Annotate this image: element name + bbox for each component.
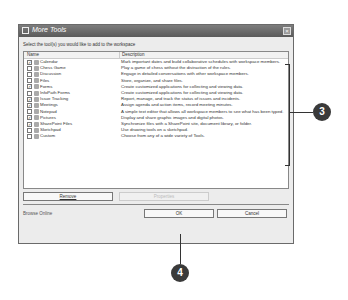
window-icon: [22, 27, 29, 34]
close-button[interactable]: ×: [283, 27, 291, 35]
tool-description: Store, organize, and share files.: [121, 78, 183, 83]
tool-icon: [34, 128, 39, 133]
tool-name: Forms: [40, 84, 52, 89]
tool-checkbox[interactable]: [27, 66, 32, 71]
tool-icon: [34, 84, 39, 89]
browse-online-link[interactable]: Browse Online: [23, 211, 52, 216]
tool-icon: [34, 115, 39, 120]
tool-description: Report, manage, and track the status of …: [121, 96, 240, 101]
tool-description: Use drawing tools on a sketchpad.: [121, 127, 188, 132]
callout-4: 4: [171, 264, 189, 282]
callout-bracket: [285, 64, 290, 166]
title-bar: More Tools ×: [19, 25, 293, 37]
tool-name: InfoPath Forms: [40, 90, 70, 95]
column-header-description[interactable]: Description: [119, 52, 145, 58]
remove-label: Remove: [60, 194, 77, 199]
tool-checkbox[interactable]: [27, 134, 32, 139]
remove-button[interactable]: Remove: [23, 192, 113, 201]
tool-description: Play a game of chess without the distrac…: [121, 65, 231, 70]
tool-icon: [34, 60, 39, 65]
tool-checkbox[interactable]: ✓: [27, 103, 32, 108]
ok-button[interactable]: OK: [144, 209, 214, 218]
tool-name: Meetings: [40, 102, 58, 107]
tool-icon: [34, 134, 39, 139]
tool-name: Calendar: [40, 59, 58, 64]
tool-name: Custom: [40, 133, 55, 138]
tool-checkbox[interactable]: [27, 78, 32, 83]
tool-name: SharePoint Files: [40, 121, 72, 126]
tool-icon: [34, 78, 39, 83]
tool-description: Create customized applications for colle…: [121, 90, 243, 95]
dialog-title: More Tools: [32, 26, 66, 33]
tool-checkbox[interactable]: ✓: [27, 122, 32, 127]
tool-checkbox[interactable]: ✓: [27, 60, 32, 65]
properties-button: Properties: [119, 192, 209, 201]
callout-3-line: [289, 112, 313, 113]
cancel-button[interactable]: Cancel: [217, 209, 287, 218]
callout-3: 3: [313, 103, 331, 121]
tool-icon: [34, 66, 39, 71]
tool-description: Create customized applications for colle…: [121, 84, 243, 89]
tool-description: Mark important dates and build collabora…: [121, 59, 280, 64]
tool-checkbox[interactable]: [27, 91, 32, 96]
tool-checkbox[interactable]: ✓: [27, 84, 32, 89]
tool-row[interactable]: CustomChoose from any of a wide variety …: [24, 133, 288, 139]
tool-name: Discussion: [40, 71, 61, 76]
tool-description: Display and share graphic images and dig…: [121, 115, 224, 120]
tool-checkbox[interactable]: [27, 72, 32, 77]
tool-description: A simple text editor that allows all wor…: [121, 109, 284, 114]
tool-description: Choose from any of a wide variety of Too…: [121, 133, 205, 138]
tool-icon: [34, 103, 39, 108]
tool-icon: [34, 91, 39, 96]
tool-checkbox[interactable]: [27, 109, 32, 114]
tools-list[interactable]: Name Description ✓CalendarMark important…: [23, 51, 289, 189]
tool-icon: [34, 97, 39, 102]
tool-name: Notepad: [40, 109, 57, 114]
tool-icon: [34, 72, 39, 77]
tool-name: Sketchpad: [40, 127, 61, 132]
more-tools-dialog: More Tools × Select the tool(s) you woul…: [18, 24, 294, 244]
tool-description: Synchronize files with a SharePoint site…: [121, 121, 252, 126]
tool-name: Pictures: [40, 115, 56, 120]
tool-description: Engage in detailed conversations with ot…: [121, 71, 249, 76]
tool-checkbox[interactable]: [27, 128, 32, 133]
list-header: Name Description: [24, 52, 288, 59]
callout-4-line: [180, 234, 181, 264]
tool-name: Files: [40, 78, 49, 83]
instruction-text: Select the tool(s) you would like to add…: [23, 42, 135, 47]
tool-icon: [34, 122, 39, 127]
column-header-name[interactable]: Name: [27, 52, 39, 57]
tool-name: Issue Tracking: [40, 96, 68, 101]
tool-checkbox[interactable]: ✓: [27, 97, 32, 102]
tool-checkbox[interactable]: ✓: [27, 115, 32, 120]
tool-name: Chess Game: [40, 65, 66, 70]
separator: [23, 204, 289, 205]
tool-icon: [34, 109, 39, 114]
tool-description: Assign agenda and action items, record m…: [121, 102, 233, 107]
